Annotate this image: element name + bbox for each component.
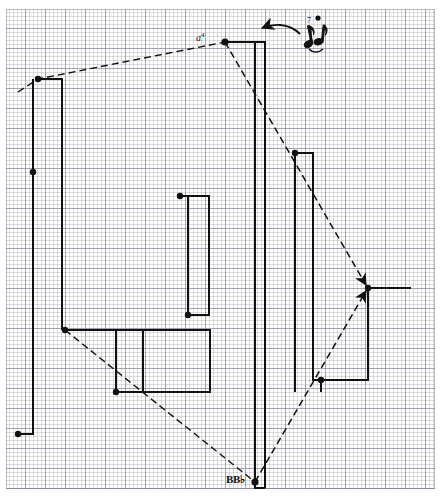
curved-arrow-left-icon: [262, 25, 300, 34]
node-right-lower: [318, 377, 324, 383]
note-head-right-group: [313, 24, 328, 47]
note-dot: [315, 15, 320, 20]
node-left-upper: [35, 76, 41, 82]
eighth-note-pair-icon: 7: [296, 12, 332, 58]
node-right-arrowhead: [365, 285, 371, 291]
contour-step-mid-left: [62, 330, 143, 392]
node-right-upper: [292, 150, 298, 156]
top-pitch-label: a4: [196, 31, 205, 43]
left-descending-dashed: [65, 330, 255, 482]
lower-right-ascending-dashed-arrow: [255, 291, 366, 482]
figure-canvas: · · · · · · · · · · · · · · · ·: [0, 0, 441, 498]
dashed-boundary-lines: [18, 42, 255, 482]
node-center-lower: [185, 312, 191, 318]
node-top-peak: [221, 38, 228, 45]
node-bottom-bbflat: [251, 478, 258, 485]
contour-step-left: [18, 79, 62, 434]
contour-nodes: [15, 38, 371, 485]
node-center-upper: [177, 193, 183, 199]
contour-step-right: [295, 153, 411, 380]
contour-plot: [0, 0, 441, 498]
solid-step-contours: [18, 42, 411, 488]
bottom-pitch-label: BB♭: [226, 473, 245, 486]
contour-step-right-inner: [295, 153, 321, 392]
note-tie: [309, 49, 323, 52]
note-figure-seven: 7: [307, 16, 311, 25]
contour-step-center: [180, 196, 209, 315]
contour-step-top-center: [225, 42, 265, 488]
node-mid-left-step: [62, 327, 68, 333]
upper-boundary-dashed: [18, 42, 225, 92]
node-left-lower: [15, 431, 21, 437]
node-left-mid: [30, 169, 36, 175]
note-head-left-group: [300, 25, 318, 50]
node-mid-left-lower: [113, 389, 119, 395]
